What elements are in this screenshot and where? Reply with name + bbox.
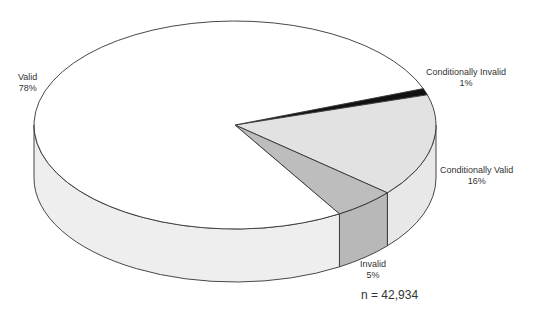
label-invalid: Invalid 5% [360, 259, 386, 281]
label-invalid-pct: 5% [360, 270, 386, 281]
label-conditionally-invalid-pct: 1% [426, 78, 506, 89]
sample-size-annotation: n = 42,934 [361, 288, 418, 302]
pie-top-faces [34, 21, 436, 229]
label-valid-name: Valid [18, 72, 37, 83]
label-conditionally-invalid: Conditionally Invalid 1% [426, 67, 506, 89]
label-conditionally-valid: Conditionally Valid 16% [440, 165, 513, 187]
label-conditionally-valid-name: Conditionally Valid [440, 165, 513, 176]
label-invalid-name: Invalid [360, 259, 386, 270]
label-valid-pct: 78% [18, 83, 37, 94]
label-valid: Valid 78% [18, 72, 37, 94]
label-conditionally-invalid-name: Conditionally Invalid [426, 67, 506, 78]
pie-chart-3d [0, 0, 542, 317]
label-conditionally-valid-pct: 16% [440, 176, 513, 187]
